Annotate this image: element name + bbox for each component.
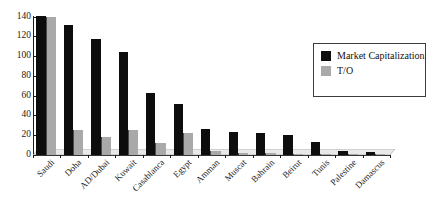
bar-market-capitalization xyxy=(36,16,45,155)
bar-to xyxy=(210,151,220,155)
bar-group xyxy=(119,16,140,155)
bar-to xyxy=(348,154,358,155)
x-tick-label-text: Doha xyxy=(64,158,84,178)
bar-group xyxy=(256,16,277,155)
x-axis-line xyxy=(33,155,390,156)
x-tick-label-text: Damascus xyxy=(353,158,386,191)
x-tick-label-text: Saudi xyxy=(36,158,57,179)
bar-market-capitalization xyxy=(91,39,100,155)
x-tick-mark xyxy=(143,155,144,158)
legend-label-to: T/O xyxy=(337,65,353,76)
bar-group xyxy=(64,16,85,155)
bar-to xyxy=(293,154,303,155)
bar-to xyxy=(155,143,165,155)
x-tick-mark xyxy=(88,155,89,158)
bar-to xyxy=(183,133,193,155)
x-tick-label-text: AD/Dubai xyxy=(78,158,111,191)
legend-label-market-capitalization: Market Capitalization xyxy=(337,50,424,61)
y-tick-label: 20 xyxy=(0,130,31,140)
bar-to xyxy=(320,154,330,155)
x-tick-label-text: Tunis xyxy=(310,158,331,179)
x-tick-mark xyxy=(60,155,61,158)
bar-group xyxy=(36,16,57,155)
legend-item-market-capitalization: Market Capitalization xyxy=(321,50,425,61)
x-tick-label-text: Beirut xyxy=(281,158,303,180)
bar-market-capitalization xyxy=(256,133,265,155)
bar-market-capitalization xyxy=(64,25,73,155)
x-tick-label-text: Amman xyxy=(194,158,221,185)
y-tick-label: 60 xyxy=(0,91,31,101)
bar-to xyxy=(46,17,56,156)
x-tick-mark xyxy=(115,155,116,158)
x-tick-mark xyxy=(225,155,226,158)
x-tick-mark xyxy=(170,155,171,158)
x-tick-mark xyxy=(390,155,391,158)
bar-market-capitalization xyxy=(119,52,128,155)
bar-market-capitalization xyxy=(366,152,375,155)
bar-market-capitalization xyxy=(338,151,347,155)
x-tick-mark xyxy=(253,155,254,158)
x-tick-mark xyxy=(363,155,364,158)
y-tick-label: 120 xyxy=(0,31,31,41)
x-tick-mark xyxy=(33,155,34,158)
bar-group xyxy=(91,16,112,155)
bar-chart: 020406080100120140 SaudiDohaAD/DubaiKuwa… xyxy=(0,0,436,213)
x-tick-label-text: Egypt xyxy=(172,158,194,180)
chart-legend: Market Capitalization T/O xyxy=(313,43,426,97)
x-tick-mark xyxy=(198,155,199,158)
legend-item-to: T/O xyxy=(321,65,425,76)
y-tick-label: 100 xyxy=(0,51,31,61)
bar-market-capitalization xyxy=(146,93,155,155)
y-tick-label: 40 xyxy=(0,110,31,120)
bar-group xyxy=(174,16,195,155)
bar-to xyxy=(128,130,138,155)
x-tick-mark xyxy=(280,155,281,158)
bar-market-capitalization xyxy=(174,104,183,155)
bar-group xyxy=(229,16,250,155)
x-tick-mark xyxy=(335,155,336,158)
y-tick-label: 80 xyxy=(0,71,31,81)
bar-group xyxy=(146,16,167,155)
bar-market-capitalization xyxy=(283,135,292,155)
y-tick-label: 0 xyxy=(0,150,31,160)
bar-group xyxy=(283,16,304,155)
bar-to xyxy=(73,130,83,155)
bar-to xyxy=(101,137,111,155)
bar-to xyxy=(238,153,248,155)
bar-group xyxy=(201,16,222,155)
y-tick-label: 140 xyxy=(0,12,31,22)
x-tick-label-text: Kuwait xyxy=(114,158,139,183)
bar-market-capitalization xyxy=(229,132,238,155)
legend-swatch-market-capitalization xyxy=(321,51,331,61)
x-tick-label-text: Muscat xyxy=(224,158,249,183)
x-tick-label-text: Bahrain xyxy=(250,158,277,185)
legend-swatch-to xyxy=(321,66,331,76)
bar-to xyxy=(375,154,385,155)
bar-market-capitalization xyxy=(201,129,210,155)
x-tick-mark xyxy=(308,155,309,158)
bar-to xyxy=(265,153,275,155)
bar-market-capitalization xyxy=(311,142,320,155)
